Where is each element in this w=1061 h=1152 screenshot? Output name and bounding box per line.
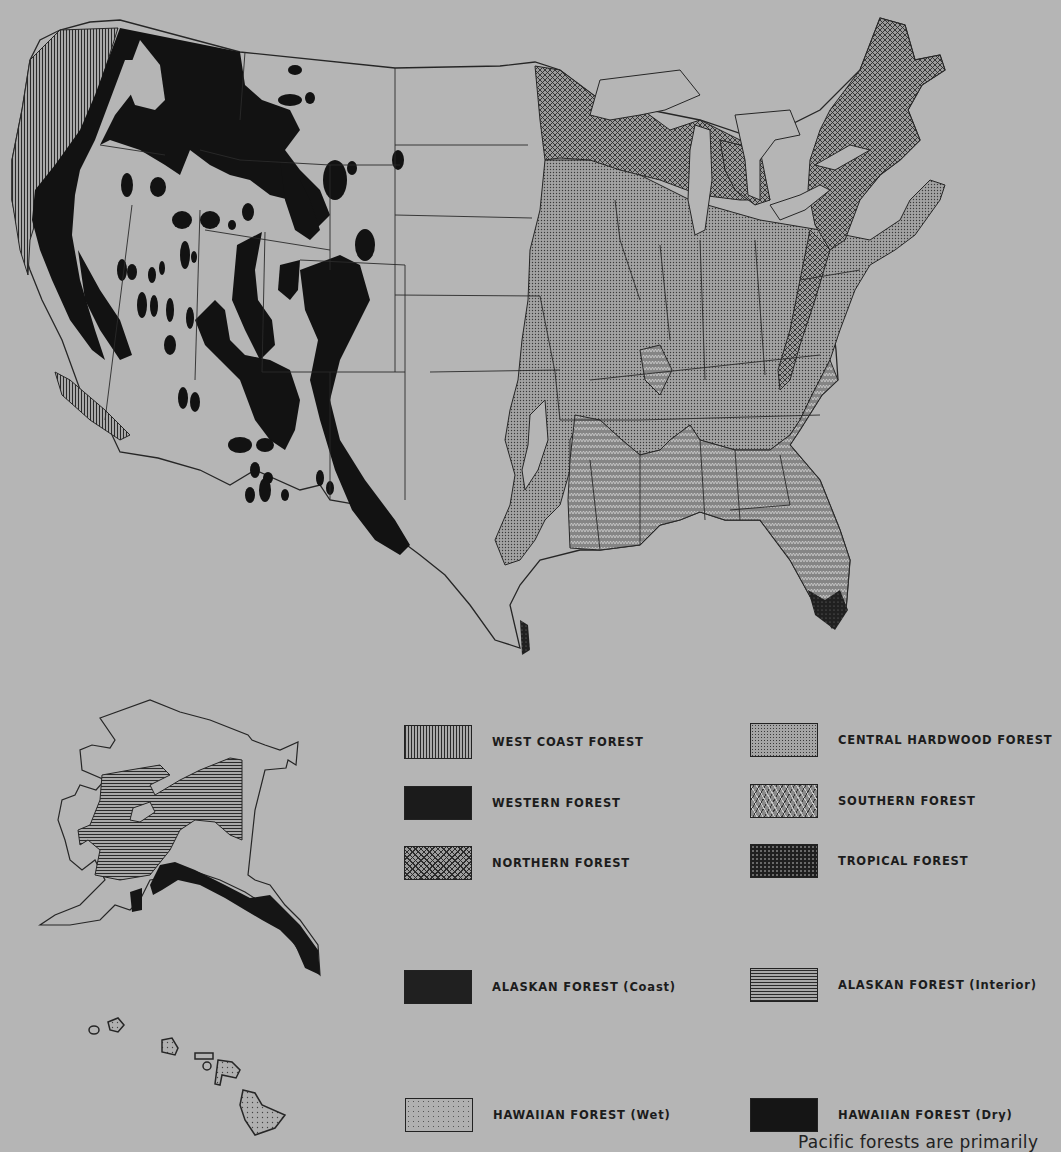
caption-text: Pacific forests are primarily [798, 1132, 1038, 1152]
southern-forest-swatch [750, 784, 818, 818]
legend-item-west-coast-forest: WEST COAST FOREST [404, 725, 644, 759]
tropical-forest-swatch [750, 844, 818, 878]
hawaiian-forest-wet-swatch [405, 1098, 473, 1132]
legend-item-southern-forest: SOUTHERN FOREST [750, 784, 976, 818]
region-tropical-forest [520, 590, 848, 655]
west-coast-forest-swatch [404, 725, 472, 759]
legend-label: WEST COAST FOREST [492, 735, 644, 749]
western-forest-swatch [404, 786, 472, 820]
legend-item-western-forest: WESTERN FOREST [404, 786, 621, 820]
legend-item-hawaiian-forest-wet: HAWAIIAN FOREST (Wet) [405, 1098, 671, 1132]
legend-label: WESTERN FOREST [492, 796, 621, 810]
legend-item-alaskan-forest-coast: ALASKAN FOREST (Coast) [404, 970, 676, 1004]
alaska-inset [40, 700, 320, 975]
legend-label: CENTRAL HARDWOOD FOREST [838, 733, 1052, 747]
legend-label: HAWAIIAN FOREST (Dry) [838, 1108, 1013, 1122]
legend-item-hawaiian-forest-dry: HAWAIIAN FOREST (Dry) [750, 1098, 1013, 1132]
legend-label: TROPICAL FOREST [838, 854, 968, 868]
central-hardwood-forest-swatch [750, 723, 818, 757]
alaskan-forest-interior-swatch [750, 968, 818, 1002]
legend-label: ALASKAN FOREST (Interior) [838, 978, 1037, 992]
hawaii-inset [89, 1018, 285, 1135]
legend-item-tropical-forest: TROPICAL FOREST [750, 844, 968, 878]
legend-item-central-hardwood-forest: CENTRAL HARDWOOD FOREST [750, 723, 1052, 757]
legend-item-alaskan-forest-interior: ALASKAN FOREST (Interior) [750, 968, 1037, 1002]
legend-label: SOUTHERN FOREST [838, 794, 976, 808]
legend-label: ALASKAN FOREST (Coast) [492, 980, 676, 994]
legend-item-northern-forest: NORTHERN FOREST [404, 846, 630, 880]
hawaiian-forest-dry-swatch [750, 1098, 818, 1132]
northern-forest-swatch [404, 846, 472, 880]
legend-label: NORTHERN FOREST [492, 856, 630, 870]
legend-label: HAWAIIAN FOREST (Wet) [493, 1108, 671, 1122]
alaskan-forest-coast-swatch [404, 970, 472, 1004]
